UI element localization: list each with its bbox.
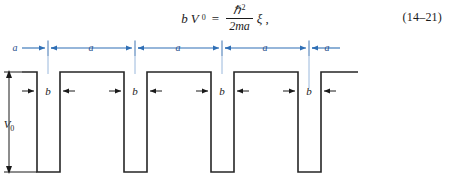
potential-diagram: a a a a a V0 — [0, 0, 450, 181]
barrier-label-b-3: b — [219, 85, 225, 97]
period-label-a-5: a — [325, 42, 330, 53]
depth-indicator-v0: V0 — [4, 70, 37, 174]
period-label-a-4: a — [263, 42, 268, 53]
barrier-width-labels: b b b b — [45, 85, 312, 97]
period-label-a-1: a — [13, 42, 18, 53]
figure-root: bV0 = ℏ2 2ma ξ, (14–21) — [0, 0, 450, 181]
depth-label-v0-subscript: 0 — [10, 124, 14, 133]
depth-arrow-up — [6, 70, 12, 78]
barrier-label-b-2: b — [132, 85, 138, 97]
period-label-a-3: a — [176, 42, 181, 53]
barrier-label-b-4: b — [306, 85, 312, 97]
barrier-label-b-1: b — [45, 85, 51, 97]
period-dimension-row: a a a a a — [13, 40, 341, 88]
period-label-a-2: a — [89, 42, 94, 53]
depth-arrow-down — [6, 166, 12, 174]
